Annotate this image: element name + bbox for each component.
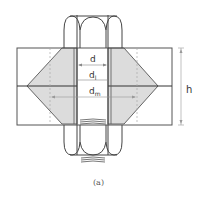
bolt-head bbox=[64, 16, 122, 48]
dim-h-arrow-bottom bbox=[180, 120, 183, 124]
bolted-joint-diagram: d dl dm h (a) bbox=[0, 0, 202, 203]
thread-upper bbox=[80, 119, 106, 124]
dim-h-arrow-top bbox=[180, 49, 183, 53]
label-d: d bbox=[90, 54, 96, 64]
dim-d-arrow-right bbox=[103, 64, 107, 67]
label-dm: dm bbox=[89, 86, 101, 97]
caption: (a) bbox=[93, 178, 104, 187]
nut bbox=[64, 125, 122, 155]
thread-lower bbox=[81, 157, 105, 162]
dim-d-arrow-left bbox=[78, 64, 82, 67]
label-h: h bbox=[186, 84, 192, 95]
label-dl: dl bbox=[89, 70, 97, 81]
